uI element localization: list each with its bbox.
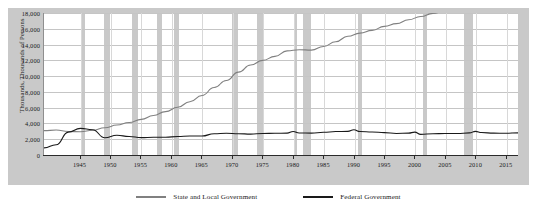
x-tick-mark xyxy=(110,156,111,159)
y-tick-label: 8,000 xyxy=(25,88,40,95)
x-tick-label: 1970 xyxy=(225,161,238,168)
x-tick-label: 2000 xyxy=(408,161,421,168)
x-tick-mark xyxy=(80,156,81,159)
y-axis-title: Thousands, Thousands of Persons xyxy=(18,0,25,141)
legend-swatch-federal xyxy=(303,196,333,198)
plot-area xyxy=(43,13,518,155)
y-tick-label: 6,000 xyxy=(25,104,40,111)
x-tick-label: 1965 xyxy=(195,161,208,168)
x-tick-label: 1950 xyxy=(103,161,116,168)
legend-swatch-state-local xyxy=(136,196,166,198)
x-tick-mark xyxy=(384,156,385,159)
y-axis-labels: 18,00016,00014,00012,00010,0008,0006,000… xyxy=(8,13,42,155)
x-tick-label: 2005 xyxy=(438,161,451,168)
x-tick-mark xyxy=(414,156,415,159)
chart-figure: 18,00016,00014,00012,00010,0008,0006,000… xyxy=(0,0,537,208)
x-axis-labels: 1945195019551960196519701975198019851990… xyxy=(43,156,518,178)
x-tick-label: 1960 xyxy=(164,161,177,168)
y-tick-label: 0 xyxy=(37,152,40,159)
x-tick-mark xyxy=(445,156,446,159)
x-tick-mark xyxy=(201,156,202,159)
x-tick-mark xyxy=(262,156,263,159)
legend-item-state-and-local-government: State and Local Government xyxy=(136,193,257,201)
series-lines xyxy=(44,13,518,155)
x-tick-mark xyxy=(354,156,355,159)
x-tick-mark xyxy=(506,156,507,159)
legend-label-state-local: State and Local Government xyxy=(173,193,257,201)
y-tick-label: 2,000 xyxy=(25,136,40,143)
x-tick-label: 1990 xyxy=(347,161,360,168)
x-tick-mark xyxy=(171,156,172,159)
x-tick-label: 1995 xyxy=(377,161,390,168)
x-tick-mark xyxy=(232,156,233,159)
y-tick-label: 18,000 xyxy=(22,10,40,17)
legend-item-federal-government: Federal Government xyxy=(303,193,400,201)
x-tick-label: 1975 xyxy=(256,161,269,168)
x-tick-mark xyxy=(140,156,141,159)
y-tick-label: 12,000 xyxy=(22,57,40,64)
y-tick-label: 4,000 xyxy=(25,120,40,127)
y-tick-label: 16,000 xyxy=(22,25,40,32)
x-tick-mark xyxy=(323,156,324,159)
x-tick-label: 1985 xyxy=(317,161,330,168)
x-tick-label: 2015 xyxy=(499,161,512,168)
chart-legend: State and Local Government Federal Gover… xyxy=(8,186,529,208)
x-tick-mark xyxy=(475,156,476,159)
x-tick-label: 2010 xyxy=(469,161,482,168)
series-line xyxy=(44,13,518,132)
legend-label-federal: Federal Government xyxy=(340,193,400,201)
x-tick-label: 1945 xyxy=(73,161,86,168)
x-tick-label: 1980 xyxy=(286,161,299,168)
x-tick-label: 1955 xyxy=(134,161,147,168)
series-line xyxy=(44,128,518,148)
x-tick-mark xyxy=(293,156,294,159)
y-tick-label: 14,000 xyxy=(22,41,40,48)
y-tick-label: 10,000 xyxy=(22,73,40,80)
